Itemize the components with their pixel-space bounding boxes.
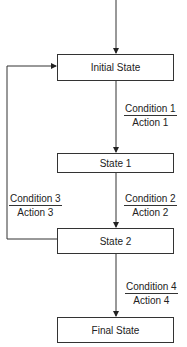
transition-label-4: Condition 4 Action 4 (125, 280, 178, 307)
transition-label-1: Condition 1 Action 1 (124, 102, 177, 129)
condition-2: Condition 2 (124, 192, 177, 206)
state-initial: Initial State (57, 54, 174, 81)
action-4: Action 4 (125, 294, 178, 307)
action-1: Action 1 (124, 116, 177, 129)
action-3: Action 3 (9, 206, 62, 219)
transition-label-2: Condition 2 Action 2 (124, 192, 177, 219)
action-2: Action 2 (124, 206, 177, 219)
condition-1: Condition 1 (124, 102, 177, 116)
state-final: Final State (57, 317, 174, 343)
state-final-label: Final State (92, 325, 140, 336)
condition-3: Condition 3 (9, 192, 62, 206)
transition-label-3: Condition 3 Action 3 (9, 192, 62, 219)
state-2: State 2 (57, 228, 174, 254)
state-1: State 1 (57, 153, 174, 173)
condition-4: Condition 4 (125, 280, 178, 294)
state-1-label: State 1 (100, 158, 132, 169)
state-initial-label: Initial State (91, 62, 140, 73)
state-2-label: State 2 (100, 236, 132, 247)
